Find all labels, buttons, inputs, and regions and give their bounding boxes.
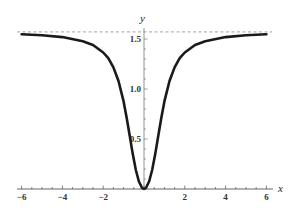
x-tick-label: −4 (58, 192, 68, 202)
x-tick-label: 4 (223, 192, 228, 202)
x-tick-label: −6 (17, 192, 27, 202)
x-tick-label: 2 (183, 192, 188, 202)
y-axis-label: y (139, 12, 145, 24)
x-axis-label: x (277, 182, 283, 194)
y-tick-label: 1.5 (130, 34, 142, 44)
x-tick-label: 6 (264, 192, 269, 202)
y-tick-label: 1.0 (130, 84, 142, 94)
line-chart: −6−4−2246 0.51.01.5 x y (0, 0, 300, 211)
x-tick-label: −2 (98, 192, 108, 202)
